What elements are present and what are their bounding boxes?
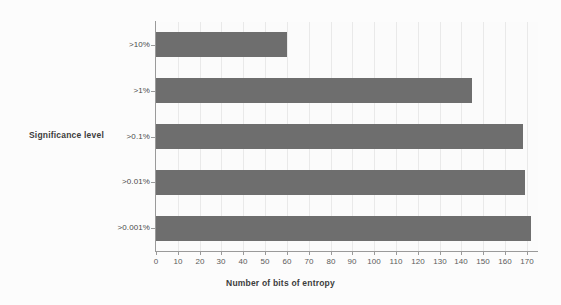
y-axis-tick-label: >10% <box>129 40 150 49</box>
x-axis-tick <box>374 251 375 255</box>
y-axis-tick-label: >1% <box>133 86 150 95</box>
x-axis-tick <box>527 251 528 255</box>
y-axis-tick <box>151 228 156 229</box>
y-axis-tick-label: >0.001% <box>117 223 150 232</box>
x-axis-tick <box>309 251 310 255</box>
x-axis-tick-label: 170 <box>514 257 540 266</box>
bar <box>156 170 525 195</box>
x-axis-tick <box>331 251 332 255</box>
x-axis-tick <box>243 251 244 255</box>
x-axis-tick <box>396 251 397 255</box>
bar <box>156 124 523 149</box>
y-axis-tick <box>151 91 156 92</box>
x-axis-tick <box>352 251 353 255</box>
bar <box>156 216 531 241</box>
x-axis-tick <box>440 251 441 255</box>
x-axis-tick <box>200 251 201 255</box>
y-axis-tick-label: >0.1% <box>127 132 150 141</box>
x-axis-line <box>155 251 538 252</box>
y-axis-tick <box>151 45 156 46</box>
x-axis-tick <box>178 251 179 255</box>
x-axis-tick <box>265 251 266 255</box>
x-axis-tick <box>483 251 484 255</box>
bar-chart-figure: 0102030405060708090100110120130140150160… <box>0 0 561 305</box>
x-axis-title: Number of bits of entropy <box>0 278 561 288</box>
x-axis-tick <box>221 251 222 255</box>
x-axis-tick <box>156 251 157 255</box>
bar <box>156 78 472 103</box>
bar <box>156 32 287 57</box>
x-axis-tick <box>418 251 419 255</box>
y-axis-tick <box>151 182 156 183</box>
y-axis-tick <box>151 137 156 138</box>
y-axis-tick-label: >0.01% <box>122 177 150 186</box>
y-axis-title: Significance level <box>29 130 104 140</box>
x-axis-tick <box>287 251 288 255</box>
x-axis-tick <box>505 251 506 255</box>
x-axis-tick <box>461 251 462 255</box>
